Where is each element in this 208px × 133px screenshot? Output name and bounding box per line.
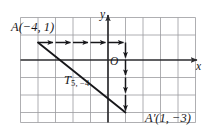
transformation-label: T5, −4 [64, 74, 90, 88]
y-axis-label: y [100, 9, 105, 21]
transformation-base: T [64, 73, 71, 87]
point-label-a: A(−4, 1) [11, 21, 54, 34]
origin-label: O [110, 56, 118, 68]
point-label-a-prime: A′(1, −3) [145, 112, 191, 125]
transformation-subscript: 5, −4 [71, 78, 90, 88]
translation-figure: A(−4, 1) A′(1, −3) T5, −4 O y x [0, 0, 208, 133]
x-axis-label: x [196, 61, 201, 73]
